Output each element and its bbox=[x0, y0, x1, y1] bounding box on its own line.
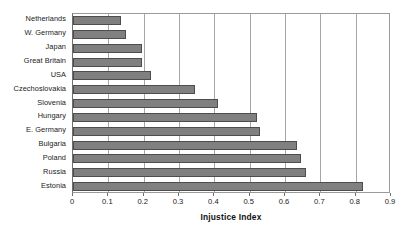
category-label: Russia bbox=[0, 168, 66, 176]
bar-row bbox=[73, 125, 391, 139]
category-label: E. Germany bbox=[0, 126, 66, 134]
bar bbox=[73, 58, 142, 67]
bar bbox=[73, 16, 121, 25]
category-label: Bulgaria bbox=[0, 140, 66, 148]
bar bbox=[73, 141, 297, 150]
bar-row bbox=[73, 111, 391, 125]
value-axis: 00.10.20.30.40.50.60.70.80.9 bbox=[72, 193, 390, 209]
axis-tick-label: 0.9 bbox=[375, 197, 405, 206]
injustice-index-bar-chart: NetherlandsW. GermanyJapanGreat BritainU… bbox=[0, 0, 414, 232]
category-label: Estonia bbox=[0, 182, 66, 190]
axis-tick bbox=[143, 193, 144, 196]
bar bbox=[73, 127, 260, 136]
bar bbox=[73, 182, 363, 191]
axis-tick-label: 0.1 bbox=[92, 197, 122, 206]
bar-row bbox=[73, 180, 391, 194]
bar bbox=[73, 71, 151, 80]
axis-tick-label: 0.4 bbox=[198, 197, 228, 206]
bar-row bbox=[73, 28, 391, 42]
bar bbox=[73, 154, 301, 163]
bar-row bbox=[73, 14, 391, 28]
bar bbox=[73, 44, 142, 53]
bar bbox=[73, 30, 126, 39]
axis-tick bbox=[355, 193, 356, 196]
axis-tick bbox=[72, 193, 73, 196]
bar-row bbox=[73, 152, 391, 166]
category-label: Great Britain bbox=[0, 57, 66, 65]
axis-tick-label: 0.6 bbox=[269, 197, 299, 206]
bar-row bbox=[73, 139, 391, 153]
axis-tick bbox=[107, 193, 108, 196]
bar-row bbox=[73, 83, 391, 97]
axis-tick bbox=[390, 193, 391, 196]
category-label: Slovenia bbox=[0, 99, 66, 107]
axis-tick-label: 0.8 bbox=[340, 197, 370, 206]
axis-tick bbox=[249, 193, 250, 196]
axis-tick-label: 0.3 bbox=[163, 197, 193, 206]
axis-tick bbox=[284, 193, 285, 196]
x-axis-title: Injustice Index bbox=[72, 212, 390, 222]
bar bbox=[73, 99, 218, 108]
category-axis: NetherlandsW. GermanyJapanGreat BritainU… bbox=[0, 13, 70, 193]
axis-tick bbox=[319, 193, 320, 196]
axis-tick bbox=[213, 193, 214, 196]
axis-tick-label: 0.5 bbox=[234, 197, 264, 206]
axis-tick-label: 0 bbox=[57, 197, 87, 206]
category-label: USA bbox=[0, 71, 66, 79]
category-label: Hungary bbox=[0, 112, 66, 120]
category-label: Japan bbox=[0, 43, 66, 51]
category-label: Czechoslovakia bbox=[0, 85, 66, 93]
bar-row bbox=[73, 69, 391, 83]
bar-row bbox=[73, 42, 391, 56]
bar bbox=[73, 168, 306, 177]
category-label: Netherlands bbox=[0, 15, 66, 23]
axis-tick-label: 0.2 bbox=[128, 197, 158, 206]
plot-area bbox=[72, 13, 390, 193]
axis-tick-label: 0.7 bbox=[304, 197, 334, 206]
bar bbox=[73, 85, 195, 94]
bar bbox=[73, 113, 257, 122]
category-label: W. Germany bbox=[0, 29, 66, 37]
axis-tick bbox=[178, 193, 179, 196]
bar-row bbox=[73, 166, 391, 180]
bar-row bbox=[73, 56, 391, 70]
bar-row bbox=[73, 97, 391, 111]
category-label: Poland bbox=[0, 154, 66, 162]
